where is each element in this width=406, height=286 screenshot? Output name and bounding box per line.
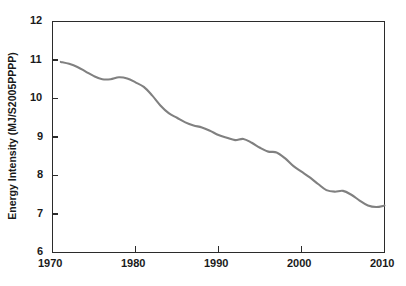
y-tick-label-6: 6 [37,246,43,257]
chart-plot-svg: Energy Intensity (MJ/S2005PPPP) [0,0,406,286]
x-tick-label-2000: 2000 [287,258,311,269]
y-tick-label-9: 9 [37,131,43,142]
data-series-line [61,62,385,207]
x-axis-tick-marks [53,246,385,253]
y-axis-title: Energy Intensity (MJ/S2005PPPP) [6,52,18,219]
axis-lines [52,21,385,253]
y-tick-label-8: 8 [37,169,43,180]
x-tick-label-1970: 1970 [38,258,62,269]
y-tick-label-12: 12 [30,15,42,26]
chart-container: Energy Intensity (MJ/S2005PPPP) 12 1 [0,0,406,286]
y-axis-title-group: Energy Intensity (MJ/S2005PPPP) [6,52,18,219]
x-tick-label-2010: 2010 [370,258,394,269]
x-tick-label-1980: 1980 [121,258,145,269]
y-tick-label-7: 7 [37,208,43,219]
y-tick-label-10: 10 [30,92,42,103]
y-axis-tick-marks [53,22,58,253]
x-tick-label-1990: 1990 [204,258,228,269]
y-tick-label-11: 11 [30,54,42,65]
